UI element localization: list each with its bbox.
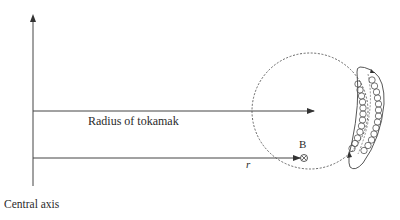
diagram-graphics: [0, 0, 400, 220]
radius-of-tokamak-label: Radius of tokamak: [88, 114, 179, 129]
b-field-label: B: [299, 138, 306, 150]
central-axis-label: Central axis: [4, 198, 59, 210]
tokamak-diagram: Radius of tokamak Central axis r B: [0, 0, 400, 220]
r-label: r: [246, 158, 250, 170]
b-field-into-page-icon: [301, 155, 308, 162]
central-axis-line: [30, 14, 36, 186]
coil-windings: [349, 77, 382, 154]
